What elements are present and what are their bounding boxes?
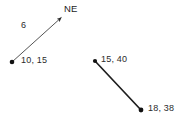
direction-label-ne: NE [64,3,78,14]
magnitude-label-6: 6 [21,20,26,31]
point-label-10-15: 10, 15 [21,55,47,66]
vector-end-point-segment [139,108,144,113]
diagram-canvas: NE 6 10, 15 15, 40 18, 38 [0,0,183,125]
vector-segment [95,61,141,110]
point-label-18-38: 18, 38 [148,103,174,114]
vector-start-point-segment [93,59,97,63]
vector-start-point-ne [10,60,15,65]
point-label-15-40: 15, 40 [101,54,127,65]
